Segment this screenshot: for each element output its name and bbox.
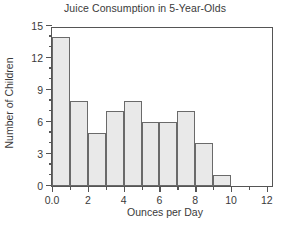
x-axis-minor-tick: [142, 186, 143, 190]
x-axis-tick: [159, 186, 160, 192]
plot-inner: 036912150.024681012: [52, 28, 272, 186]
histogram-bar: [106, 111, 124, 186]
x-axis-tick: [195, 186, 196, 192]
y-axis-tick-label: 9: [37, 84, 43, 96]
x-axis-tick-label: 6: [156, 194, 162, 206]
x-axis-tick-label: 0.0: [45, 194, 60, 206]
x-axis-tick-label: 12: [261, 194, 273, 206]
y-axis-tick: [46, 153, 52, 154]
x-axis-tick: [124, 186, 125, 192]
x-axis-title: Ounces per Day: [45, 206, 285, 218]
plot-area: 036912150.024681012: [51, 27, 273, 187]
y-axis-tick-label: 12: [31, 52, 43, 64]
y-axis-title-container: Number of Children: [1, 18, 17, 188]
x-axis-tick: [88, 186, 89, 192]
y-axis-minor-tick: [49, 67, 53, 68]
y-axis-tick-label: 15: [31, 20, 43, 32]
histogram-bar: [195, 143, 213, 186]
histogram-bar: [177, 111, 195, 186]
y-axis-minor-tick: [49, 35, 53, 36]
y-axis-title: Number of Children: [3, 57, 15, 148]
x-axis-tick: [52, 186, 53, 192]
x-axis-tick: [231, 186, 232, 192]
y-axis-tick: [46, 57, 52, 58]
x-axis-tick-label: 10: [225, 194, 237, 206]
histogram-bar: [159, 122, 177, 186]
x-axis-tick-label: 2: [85, 194, 91, 206]
y-axis-tick-label: 6: [37, 116, 43, 128]
y-axis-tick: [46, 89, 52, 90]
y-axis-minor-tick: [49, 174, 53, 175]
histogram-bar: [88, 133, 106, 186]
y-axis-tick-label: 3: [37, 148, 43, 160]
y-axis-tick: [46, 121, 52, 122]
x-axis-tick: [267, 186, 268, 192]
y-axis-minor-tick: [49, 163, 53, 164]
histogram-bar: [70, 101, 88, 186]
x-axis-tick-label: 4: [121, 194, 127, 206]
x-axis-minor-tick: [106, 186, 107, 190]
x-axis-minor-tick: [249, 186, 250, 190]
histogram-bar: [52, 37, 70, 186]
x-axis-minor-tick: [177, 186, 178, 190]
histogram-bar: [213, 175, 231, 186]
y-axis-minor-tick: [49, 46, 53, 47]
histogram-bar: [142, 122, 160, 186]
x-axis-minor-tick: [213, 186, 214, 190]
x-axis-minor-tick: [70, 186, 71, 190]
y-axis-minor-tick: [49, 99, 53, 100]
histogram-bar: [124, 101, 142, 186]
y-axis-minor-tick: [49, 131, 53, 132]
y-axis-minor-tick: [49, 78, 53, 79]
x-axis-tick-label: 8: [192, 194, 198, 206]
histogram-figure: Juice Consumption in 5-Year-Olds Number …: [0, 0, 290, 230]
y-axis-tick-label: 0: [37, 180, 43, 192]
chart-title: Juice Consumption in 5-Year-Olds: [0, 2, 290, 14]
y-axis-tick: [46, 25, 52, 26]
y-axis-minor-tick: [49, 142, 53, 143]
y-axis-minor-tick: [49, 110, 53, 111]
